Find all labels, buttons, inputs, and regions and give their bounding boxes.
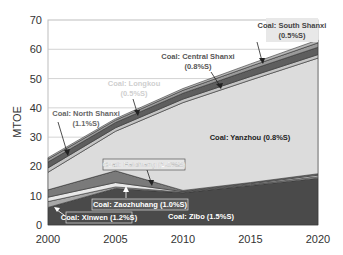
svg-text:(0.8%S): (0.8%S): [184, 62, 212, 71]
x-tick-label: 2020: [306, 233, 330, 245]
stacked-area-chart: 010203040506070 20002005201020152020 MTO…: [0, 0, 343, 255]
y-tick-label: 20: [30, 160, 42, 172]
y-tick-label: 50: [30, 73, 42, 85]
y-tick-label: 40: [30, 102, 42, 114]
x-tick-label: 2010: [171, 233, 195, 245]
annotation-zibo: Coal: Zibo (1.5%S): [168, 212, 234, 221]
svg-text:Coal: North Shanxi: Coal: North Shanxi: [52, 109, 120, 118]
svg-text:Coal: Zibo (1.5%S): Coal: Zibo (1.5%S): [168, 212, 234, 221]
annotation-yanzhou: Coal: Yanzhou (0.8%S): [210, 133, 291, 142]
y-tick-label: 60: [30, 43, 42, 55]
svg-text:(0.5%S): (0.5%S): [278, 31, 306, 40]
svg-text:Coal: Xinwen (1.2%S): Coal: Xinwen (1.2%S): [61, 213, 138, 222]
x-tick-label: 2015: [238, 233, 262, 245]
x-tick-label: 2005: [103, 233, 127, 245]
svg-text:Coal: Central Shanxi: Coal: Central Shanxi: [161, 52, 234, 61]
svg-text:Coal: Yanzhou (0.8%S): Coal: Yanzhou (0.8%S): [210, 133, 291, 142]
svg-text:(1.1%S): (1.1%S): [72, 119, 100, 128]
y-tick-label: 0: [36, 219, 42, 231]
y-axis-label: MTOE: [11, 106, 23, 138]
y-tick-label: 70: [30, 14, 42, 26]
y-tick-label: 30: [30, 131, 42, 143]
svg-text:Coal: South Shanxi: Coal: South Shanxi: [258, 21, 327, 30]
x-axis-ticks: 20002005201020152020: [36, 233, 330, 245]
svg-text:(0.5%S): (0.5%S): [120, 89, 148, 98]
y-tick-label: 10: [30, 190, 42, 202]
y-axis-ticks: 010203040506070: [30, 14, 42, 231]
svg-text:Coal: Feicheng (1.0%S): Coal: Feicheng (1.0%S): [103, 160, 186, 169]
x-tick-label: 2000: [36, 233, 60, 245]
svg-text:Coal: Longkou: Coal: Longkou: [108, 79, 161, 88]
svg-text:Coal: Zaozhuhang (1.0%S): Coal: Zaozhuhang (1.0%S): [93, 200, 188, 209]
